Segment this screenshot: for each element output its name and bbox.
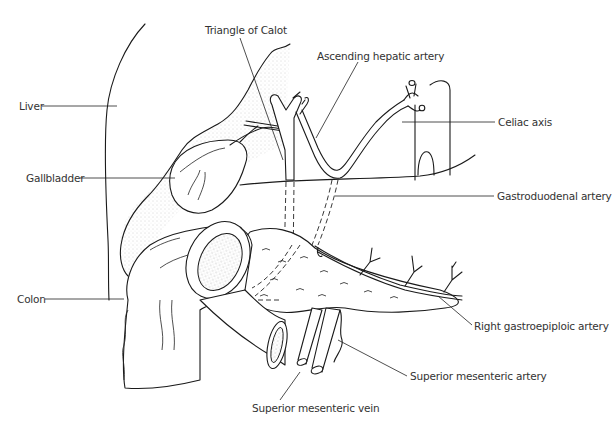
label-gallbladder: Gallbladder [26, 172, 84, 184]
label-liver: Liver [19, 100, 44, 112]
label-gastroduodenal-artery: Gastroduodenal artery [497, 190, 612, 202]
label-ascending-hepatic-artery: Ascending hepatic artery [317, 50, 444, 62]
label-triangle-of-calot: Triangle of Calot [205, 24, 287, 36]
pancreas-shape [238, 229, 458, 313]
label-right-gastroepiploic-artery: Right gastroepiploic artery [474, 320, 609, 332]
label-colon: Colon [17, 293, 46, 305]
label-superior-mesenteric-vein: Superior mesenteric vein [252, 402, 379, 414]
label-celiac-axis: Celiac axis [498, 116, 552, 128]
mesenteric-vessels [296, 308, 342, 375]
label-superior-mesenteric-artery: Superior mesenteric artery [410, 370, 547, 382]
